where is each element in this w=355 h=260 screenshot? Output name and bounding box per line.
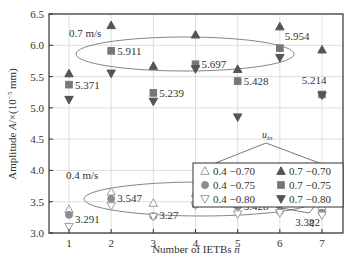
- x-tick-label: 6: [277, 237, 283, 249]
- y-tick-label: 3.0: [30, 227, 44, 239]
- legend-label: 0.7 −0.75: [289, 179, 331, 191]
- marker-circle: [108, 195, 115, 202]
- marker-triangle-up: [318, 45, 326, 53]
- y-tick-label: 6.5: [30, 8, 44, 20]
- marker-square: [234, 78, 241, 85]
- y-tick-label: 5.5: [30, 71, 44, 83]
- value-label-0-7: 5.239: [159, 87, 184, 99]
- x-axis-title: Number of IETBs n: [152, 243, 240, 255]
- value-label-0-7: 5.697: [202, 58, 227, 70]
- value-label-0-7: 5.371: [75, 79, 100, 91]
- legend-pointer: [266, 143, 322, 164]
- group-label-0-4: 0.4 m/s: [66, 169, 98, 181]
- amplitude-chart: 5.3715.9115.2395.6975.4285.9545.2143.291…: [0, 0, 355, 260]
- marker-triangle-up: [107, 21, 115, 29]
- marker-triangle-down: [233, 114, 241, 122]
- y-tick-label: 3.5: [30, 196, 44, 208]
- y-tick-label: 6.0: [30, 39, 44, 51]
- legend-label: 0.7 −0.80: [289, 193, 331, 205]
- marker-triangle-down: [276, 54, 284, 62]
- marker-circle: [66, 211, 73, 218]
- marker-triangle-up: [276, 22, 284, 30]
- value-label-0-7: 5.954: [285, 30, 310, 42]
- marker-triangle-up: [65, 69, 73, 77]
- marker-square: [108, 48, 115, 55]
- value-label-0-4: 3.547: [117, 192, 142, 204]
- marker-triangle-up-open: [149, 199, 157, 207]
- value-label-0-7: 5.428: [244, 75, 269, 87]
- value-label-0-7: 5.214: [302, 74, 327, 86]
- legend-label: 0.4 −0.80: [213, 193, 255, 205]
- value-label-0-4: 3.322: [295, 216, 320, 228]
- marker-triangle-down: [65, 96, 73, 104]
- marker-square: [66, 81, 73, 88]
- x-tick-label: 1: [66, 237, 72, 249]
- marker-square: [277, 45, 284, 52]
- legend-marker: [202, 182, 209, 189]
- value-label-0-7: 5.911: [117, 45, 141, 57]
- legend-label: 0.7 −0.70: [289, 165, 331, 177]
- legend-marker: [278, 182, 285, 189]
- y-tick-label: 5.0: [30, 102, 44, 114]
- marker-triangle-up: [191, 30, 199, 38]
- value-label-0-4: 3.291: [75, 213, 100, 225]
- legend-label: 0.4 −0.70: [213, 165, 255, 177]
- x-tick-label: 7: [319, 237, 325, 249]
- eta-label: η: [309, 215, 314, 227]
- marker-triangle-up: [149, 62, 157, 70]
- y-axis-title: Amplitude A/×(10−5 mm): [6, 68, 19, 180]
- value-label-0-4: 3.27: [159, 209, 179, 221]
- group-label-0-7: 0.7 m/s: [69, 27, 101, 39]
- y-tick-label: 4.5: [30, 133, 44, 145]
- legend-pointer: [213, 143, 266, 164]
- marker-square: [150, 90, 157, 97]
- marker-triangle-down: [191, 66, 199, 74]
- legend-label: 0.4 −0.75: [213, 179, 255, 191]
- y-tick-label: 4.0: [30, 164, 44, 176]
- marker-triangle-down: [149, 98, 157, 106]
- x-tick-label: 2: [108, 237, 114, 249]
- legend-title: uin: [262, 129, 273, 142]
